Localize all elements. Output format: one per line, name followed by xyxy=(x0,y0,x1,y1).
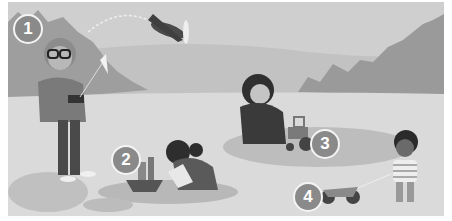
label-badge-2: 2 xyxy=(111,145,141,175)
label-badge-4: 4 xyxy=(293,182,323,212)
label-badge-3: 3 xyxy=(310,129,340,159)
park-illustration: 1 2 3 4 xyxy=(8,2,444,216)
label-badge-1: 1 xyxy=(13,14,43,44)
scene-artwork xyxy=(8,2,444,216)
